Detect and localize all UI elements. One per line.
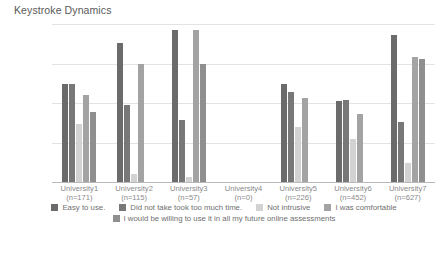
legend-item[interactable]: I was comfortable: [324, 203, 396, 212]
legend-row-primary: Easy to use.Did not take took too much t…: [0, 203, 448, 212]
bar: [200, 64, 206, 183]
legend-label: Easy to use.: [62, 203, 105, 212]
bar: [302, 98, 308, 182]
bar: [69, 84, 75, 182]
legend-label: Did not take took too much time.: [130, 203, 242, 212]
x-axis-label: University4(n=0): [216, 184, 271, 203]
bar-group: [380, 24, 435, 182]
bar: [90, 112, 96, 182]
x-axis-label: University1(n=171): [52, 184, 107, 203]
bar: [343, 100, 349, 182]
legend-label: Not intrusive: [267, 203, 310, 212]
x-axis-label-count: (n=226): [271, 193, 326, 202]
plot-area: 0.0%25.0%50.0%75.0%100.0%: [52, 24, 435, 182]
legend-item[interactable]: Not intrusive: [256, 203, 310, 212]
bar: [357, 114, 363, 182]
bar: [405, 163, 411, 182]
x-axis-label-name: University7: [380, 184, 435, 193]
legend-label: I was comfortable: [335, 203, 396, 212]
bar: [124, 105, 130, 182]
x-axis-label: University5(n=226): [271, 184, 326, 203]
bar: [419, 59, 425, 182]
chart-legend: Easy to use.Did not take took too much t…: [0, 203, 448, 225]
bar: [398, 122, 404, 182]
x-axis-label-count: (n=452): [326, 193, 381, 202]
x-axis-label-name: University1: [52, 184, 107, 193]
bar: [193, 30, 199, 182]
bar-group: [107, 24, 162, 182]
bar: [172, 30, 178, 182]
bar: [83, 95, 89, 182]
gridline: [52, 182, 435, 183]
legend-item[interactable]: I would be willing to use it in all my f…: [113, 214, 336, 223]
bar-group: [216, 24, 271, 182]
x-axis-label-name: University2: [107, 184, 162, 193]
x-axis-label-count: (n=115): [107, 193, 162, 202]
bar: [391, 35, 397, 182]
chart-container: Keystroke Dynamics 0.0%25.0%50.0%75.0%10…: [0, 0, 448, 255]
bar: [288, 92, 294, 182]
bar: [179, 120, 185, 182]
legend-swatch-icon: [256, 204, 263, 211]
x-axis-label: University6(n=452): [326, 184, 381, 203]
chart-title: Keystroke Dynamics: [14, 4, 112, 16]
x-axis-label: University3(n=57): [161, 184, 216, 203]
bar: [412, 57, 418, 182]
legend-swatch-icon: [51, 204, 58, 211]
x-axis-label-count: (n=627): [380, 193, 435, 202]
x-axis-label-count: (n=0): [216, 193, 271, 202]
x-axis-label: University2(n=115): [107, 184, 162, 203]
legend-swatch-icon: [324, 204, 331, 211]
x-axis-label-name: University4: [216, 184, 271, 193]
bar-group: [161, 24, 216, 182]
bar: [350, 139, 356, 182]
bar: [138, 64, 144, 183]
x-axis-label: University7(n=627): [380, 184, 435, 203]
legend-item[interactable]: Easy to use.: [51, 203, 105, 212]
bar: [281, 84, 287, 182]
bar: [336, 101, 342, 182]
legend-swatch-icon: [113, 215, 120, 222]
bar: [117, 43, 123, 182]
bar-group: [326, 24, 381, 182]
bar: [295, 127, 301, 182]
x-axis-label-name: University6: [326, 184, 381, 193]
bar: [76, 124, 82, 182]
bar-group: [271, 24, 326, 182]
x-axis-label-count: (n=171): [52, 193, 107, 202]
bar-group: [52, 24, 107, 182]
legend-item[interactable]: Did not take took too much time.: [119, 203, 242, 212]
legend-row-secondary: I would be willing to use it in all my f…: [0, 214, 448, 223]
legend-swatch-icon: [119, 204, 126, 211]
bar: [62, 84, 68, 182]
bar: [186, 177, 192, 182]
bar: [131, 174, 137, 182]
x-axis-label-count: (n=57): [161, 193, 216, 202]
legend-label: I would be willing to use it in all my f…: [124, 214, 336, 223]
x-axis-label-name: University5: [271, 184, 326, 193]
x-axis-labels: University1(n=171)University2(n=115)Univ…: [52, 184, 435, 203]
bar-groups: [52, 24, 435, 182]
x-axis-label-name: University3: [161, 184, 216, 193]
